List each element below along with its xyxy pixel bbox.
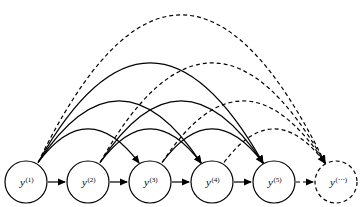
node-ydots[interactable]: y(⋯) xyxy=(315,161,357,203)
graph-canvas: y(1)y(2)y(3)y(4)y(5)y(⋯) xyxy=(0,0,360,207)
dependency-arc-y2-to-ydots xyxy=(100,63,325,163)
dependency-arc-y4-to-ydots xyxy=(224,129,325,163)
node-y2[interactable]: y(2) xyxy=(67,161,109,203)
dependency-arc-y1-to-y5 xyxy=(38,63,263,163)
node-y5[interactable]: y(5) xyxy=(253,161,295,203)
dependency-arc-y2-to-y5 xyxy=(100,101,263,163)
dependency-arcs-layer xyxy=(38,15,325,163)
node-label-superscript-ydots: (⋯) xyxy=(335,176,347,184)
node-label-superscript-y5: (5) xyxy=(273,176,282,184)
node-label-superscript-y4: (4) xyxy=(211,176,220,184)
node-label-base-y1: y xyxy=(19,176,25,188)
autoregressive-graph-figure: y(1)y(2)y(3)y(4)y(5)y(⋯) xyxy=(0,0,360,207)
node-label-base-y5: y xyxy=(267,176,273,188)
node-y1[interactable]: y(1) xyxy=(5,161,47,203)
node-y4[interactable]: y(4) xyxy=(191,161,233,203)
node-label-superscript-y1: (1) xyxy=(25,176,34,184)
node-label-base-y2: y xyxy=(81,176,87,188)
node-label-base-y3: y xyxy=(143,176,149,188)
node-label-base-y4: y xyxy=(205,176,211,188)
node-label-superscript-y2: (2) xyxy=(87,176,96,184)
dependency-arc-y1-to-y4 xyxy=(38,101,201,163)
dependency-arc-y3-to-y5 xyxy=(162,129,263,163)
dependency-arc-y2-to-y4 xyxy=(100,129,201,163)
node-label-base-ydots: y xyxy=(329,176,335,188)
node-label-superscript-y3: (3) xyxy=(149,176,158,184)
node-y3[interactable]: y(3) xyxy=(129,161,171,203)
dependency-arc-y1-to-y3 xyxy=(38,129,139,163)
